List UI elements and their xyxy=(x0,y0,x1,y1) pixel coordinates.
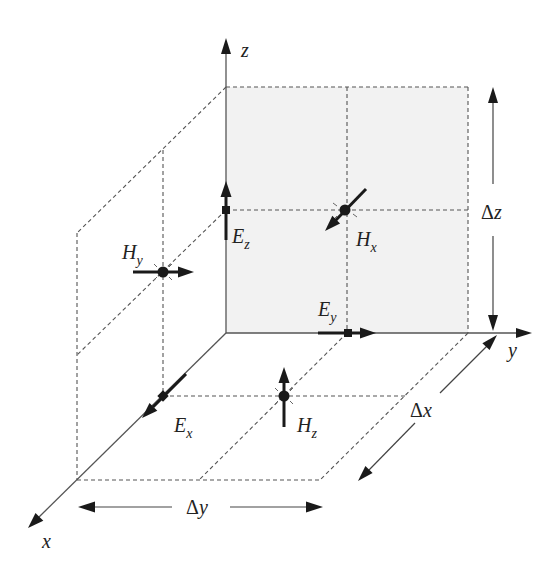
yee-cell-diagram: z y x Ez Hx xyxy=(0,0,558,567)
left-face-mid-diagonal xyxy=(77,210,226,355)
field-Ex: Ex xyxy=(142,374,193,441)
square-node-icon xyxy=(344,329,352,337)
dot-node-icon xyxy=(340,205,351,216)
dimension-dz: Δz xyxy=(481,87,502,331)
dy-label: Δy xyxy=(186,496,208,519)
dot-node-icon xyxy=(158,267,169,278)
arrowhead-icon xyxy=(178,267,194,278)
Ex-label: Ex xyxy=(173,414,193,441)
floor-mid-diagonal xyxy=(199,333,347,480)
left-face xyxy=(77,87,226,480)
y-axis-label: y xyxy=(506,339,517,362)
square-node-icon xyxy=(222,206,230,214)
dimension-dy: Δy xyxy=(78,496,323,519)
z-axis-label: z xyxy=(240,39,249,61)
dz-label: Δz xyxy=(481,201,502,223)
Hy-label: Hy xyxy=(121,241,143,268)
arrowhead-icon xyxy=(279,367,290,383)
y-axis-arrowhead-icon xyxy=(516,328,532,338)
x-axis-label: x xyxy=(41,530,51,552)
dot-node-icon xyxy=(279,391,290,402)
field-Hz: Hz xyxy=(275,367,317,441)
arrowhead-up-icon xyxy=(488,87,498,103)
field-Hy: Hy xyxy=(121,241,194,280)
arrowhead-right-icon xyxy=(306,502,323,513)
dimension-dx: Δx xyxy=(358,335,497,481)
dx-label: Δx xyxy=(410,399,432,421)
arrowhead-down-icon xyxy=(488,315,498,331)
Hz-label: Hz xyxy=(296,414,317,441)
x-axis: x xyxy=(28,333,226,552)
arrowhead-left-icon xyxy=(78,502,95,513)
z-axis-arrowhead-icon xyxy=(221,38,231,54)
